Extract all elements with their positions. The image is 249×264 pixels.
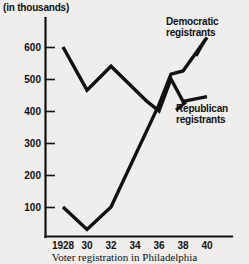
x-tick-label: 38 [177, 240, 189, 251]
series-label-democratic-line2: registrants [166, 27, 218, 38]
chart-caption: Voter registration in Philadelphia [0, 251, 249, 263]
x-tick-label: 40 [201, 240, 213, 251]
x-tick-label: 36 [153, 240, 165, 251]
series-label-republican-line1: Republican [176, 103, 228, 114]
chart-figure: (in thousands) 600 500 400 300 200 100 [0, 0, 249, 264]
x-tick-label: 1928 [52, 240, 75, 251]
y-tick-label: 200 [24, 170, 41, 181]
y-tick-label: 500 [24, 74, 41, 85]
y-tick-label: 600 [24, 42, 41, 53]
series-line-democratic [63, 37, 207, 229]
x-tick-label: 32 [105, 240, 117, 251]
series-label-democratic: Democratic registrants [166, 16, 218, 38]
series-label-democratic-line1: Democratic [166, 16, 218, 27]
x-tick-label: 34 [129, 240, 141, 251]
y-tick-label: 400 [24, 106, 41, 117]
chart-canvas: 600 500 400 300 200 100 1928 30 32 34 36… [0, 0, 249, 264]
axes-group: 600 500 400 300 200 100 1928 30 32 34 36… [24, 18, 232, 251]
series-label-republican: Republican registrants [176, 103, 228, 125]
data-series-group [63, 37, 207, 229]
x-axis-tick-labels: 1928 30 32 34 36 38 40 [52, 240, 213, 251]
x-tick-label: 30 [81, 240, 93, 251]
y-tick-label: 300 [24, 138, 41, 149]
series-label-republican-line2: registrants [176, 114, 228, 125]
y-tick-label: 100 [24, 202, 41, 213]
y-axis-tick-labels: 600 500 400 300 200 100 [24, 42, 41, 213]
